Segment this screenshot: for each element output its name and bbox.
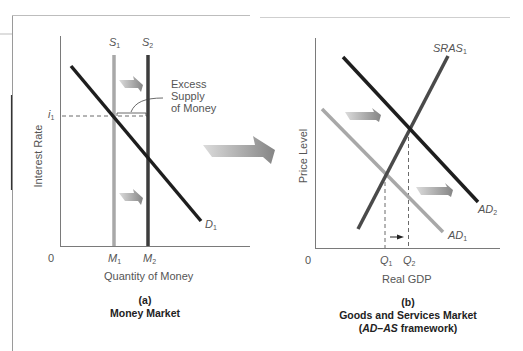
shift-arrow-icon [119, 76, 143, 92]
aggregate-demand-ad1-line [322, 109, 443, 232]
q1-label: Q1 [380, 254, 392, 267]
s1-label: S1 [109, 36, 120, 49]
goods-market-axes [315, 38, 500, 249]
ad1-label: AD1 [448, 229, 467, 242]
caption-a: (a) Money Market [90, 294, 200, 320]
y-axis-label-price-level: Price Level [297, 121, 309, 191]
output-increase-arrow-icon [390, 235, 404, 240]
excess-supply-bracket [117, 113, 146, 116]
m1-label: M1 [108, 252, 121, 265]
origin-label: 0 [305, 254, 311, 266]
shift-arrow-icon [416, 183, 453, 197]
caption-b: (b) Goods and Services Market (AD–AS fra… [333, 296, 483, 335]
transmission-arrow-icon [203, 136, 275, 164]
money-market-axes [60, 36, 250, 247]
sras-line [358, 56, 448, 229]
sras-label: SRAS1 [433, 42, 467, 55]
i1-label: i1 [48, 108, 54, 121]
origin-label: 0 [48, 252, 54, 264]
x-axis-label-quantity-of-money: Quantity of Money [104, 270, 193, 282]
s2-label: S2 [142, 36, 153, 49]
ad2-label: AD2 [478, 203, 497, 216]
shift-arrow-icon [119, 189, 143, 205]
shift-arrow-icon [345, 108, 381, 122]
aggregate-demand-ad2-line [343, 57, 478, 202]
x-axis-label-real-gdp: Real GDP [382, 273, 432, 285]
d1-label: D1 [205, 218, 217, 231]
q2-label: Q2 [403, 254, 415, 267]
excess-supply-annotation: Excess Supply of Money [171, 78, 216, 114]
m2-label: M2 [143, 252, 156, 265]
y-axis-label-interest-rate: Interest Rate [32, 121, 44, 191]
